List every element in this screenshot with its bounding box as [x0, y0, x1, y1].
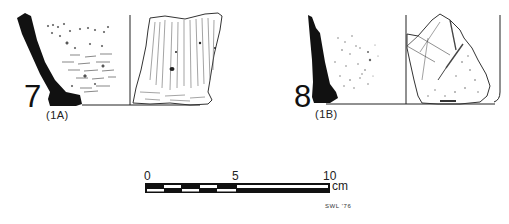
figure-8-number: 8 [294, 81, 311, 112]
sherd-8-right-edge [494, 15, 500, 102]
sherd-8-interior-texture [334, 35, 378, 88]
scale-unit: cm [332, 180, 348, 192]
sherd-8-drawing [250, 0, 509, 140]
scale-bar-graphic [145, 183, 345, 203]
artist-signature: SWL '76 [325, 203, 351, 209]
sherd-7-drawing [0, 0, 250, 140]
sherd-8-exterior-texture [427, 55, 478, 102]
sherd-8-exterior-lines [407, 20, 463, 80]
sherd-8-exterior-outline [407, 14, 490, 104]
sherd-8-illustration [250, 0, 509, 140]
sherd-7-interior-texture [47, 23, 116, 92]
figure-8-catalog: (1B) [315, 109, 338, 120]
figure-7-catalog: (1A) [46, 110, 69, 121]
sherd-8-profile [308, 15, 338, 103]
sherd-7-illustration [0, 0, 250, 140]
sherd-7-exterior-striations [140, 18, 214, 101]
figure-7-number: 7 [24, 81, 41, 112]
scale-tick-5: 5 [232, 170, 239, 182]
scale-tick-0: 0 [144, 170, 151, 182]
